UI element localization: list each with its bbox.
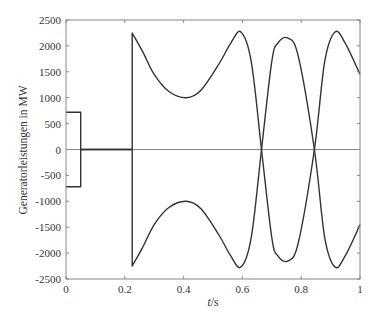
x-tick-label: 0 [63,283,69,295]
y-tick-label: 0 [56,144,62,156]
series-line-2 [66,37,360,267]
x-tick-label: 0.8 [294,283,308,295]
y-tick-label: 500 [45,118,62,130]
x-tick-label: 0.4 [177,283,191,295]
y-tick-label: -1500 [35,221,61,233]
y-tick-label: 1500 [39,66,62,78]
x-tick-label: 0.6 [236,283,250,295]
y-tick-label: -500 [41,169,62,181]
y-axis-label: Generatorleistungen in MW [17,85,30,214]
x-tick-label: 0.2 [118,283,132,295]
y-tick-label: 1000 [39,92,62,104]
y-tick-label: -2500 [35,273,61,285]
x-axis-label: t/s [208,296,219,308]
x-axis-ticks: 00.20.40.60.81 [63,20,363,295]
y-tick-label: 2000 [39,40,62,52]
y-tick-label: 2500 [39,14,62,26]
y-tick-label: -1000 [35,195,61,207]
series-line-1 [66,31,360,261]
chart: 00.20.40.60.81 25002000150010005000-500-… [0,0,377,318]
y-tick-label: -2000 [35,247,61,259]
x-tick-label: 1 [357,283,363,295]
